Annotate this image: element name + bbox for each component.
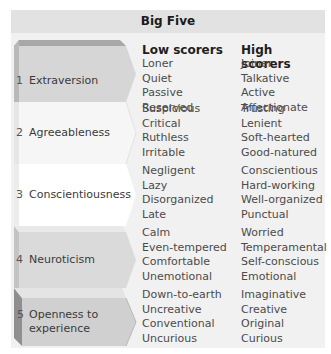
low-word: Even-tempered: [142, 241, 227, 256]
high-word: Joiner: [241, 57, 308, 72]
high-word: Conscientious: [241, 164, 323, 179]
trait-number: 4: [16, 253, 23, 266]
big-five-table: Big Five Low scorers High scorers 1 Extr…: [11, 10, 325, 348]
trait-number: 3: [16, 188, 23, 201]
low-word: Uncreative: [142, 303, 222, 318]
low-word: Down-to-earth: [142, 288, 222, 303]
high-scorer-list: Worried Temperamental Self-conscious Emo…: [241, 226, 327, 284]
low-word: Unemotional: [142, 270, 227, 285]
low-word: Negligent: [142, 164, 214, 179]
high-word: Trusting: [241, 102, 317, 117]
trait-name-line: experience: [29, 322, 98, 336]
trait-row-openness: 5 Openness to experience Down-to-earth U…: [11, 288, 325, 348]
low-scorer-list: Calm Even-tempered Comfortable Unemotion…: [142, 226, 227, 284]
high-scorer-list: Imaginative Creative Original Curious: [241, 288, 306, 346]
low-scorer-list: Suspicious Critical Ruthless Irritable: [142, 102, 200, 160]
low-word: Passive: [142, 86, 193, 101]
high-scorer-list: Trusting Lenient Soft-hearted Good-natur…: [241, 102, 317, 160]
high-word: Talkative: [241, 72, 308, 87]
low-word: Quiet: [142, 72, 193, 87]
trait-row-conscientiousness: 3 Conscientiousness Negligent Lazy Disor…: [11, 164, 325, 226]
high-word: Imaginative: [241, 288, 306, 303]
high-word: Worried: [241, 226, 327, 241]
high-word: Original: [241, 317, 306, 332]
high-word: Self-conscious: [241, 255, 327, 270]
trait-name: Neuroticism: [29, 253, 95, 267]
low-word: Irritable: [142, 146, 200, 161]
low-word: Comfortable: [142, 255, 227, 270]
trait-name: Openness to experience: [29, 308, 98, 336]
trait-name: Extraversion: [29, 74, 98, 88]
low-word: Suspicious: [142, 102, 200, 117]
high-word: Good-natured: [241, 146, 317, 161]
high-word: Punctual: [241, 208, 323, 223]
high-word: Hard-working: [241, 179, 323, 194]
low-word: Disorganized: [142, 193, 214, 208]
chevron-arrow-icon: [14, 40, 140, 104]
low-word: Lazy: [142, 179, 214, 194]
trait-number: 5: [17, 308, 24, 321]
low-word: Conventional: [142, 317, 222, 332]
high-word: Temperamental: [241, 241, 327, 256]
trait-name: Agreeableness: [29, 126, 110, 140]
trait-row-agreeableness: 2 Agreeableness Suspicious Critical Ruth…: [11, 102, 325, 164]
high-word: Curious: [241, 332, 306, 347]
high-word: Soft-hearted: [241, 131, 317, 146]
high-word: Creative: [241, 303, 306, 318]
trait-row-extraversion: 1 Extraversion Loner Quiet Passive Reser…: [11, 40, 325, 102]
low-scorer-list: Down-to-earth Uncreative Conventional Un…: [142, 288, 222, 346]
low-word: Loner: [142, 57, 193, 72]
high-word: Emotional: [241, 270, 327, 285]
high-word: Active: [241, 86, 308, 101]
low-word: Ruthless: [142, 131, 200, 146]
trait-name-line: Openness to: [29, 308, 98, 322]
trait-row-neuroticism: 4 Neuroticism Calm Even-tempered Comfort…: [11, 226, 325, 288]
low-scorer-list: Negligent Lazy Disorganized Late: [142, 164, 214, 222]
low-word: Calm: [142, 226, 227, 241]
high-word: Well-organized: [241, 193, 323, 208]
table-title: Big Five: [11, 14, 325, 28]
low-word: Critical: [142, 117, 200, 132]
low-word: Uncurious: [142, 332, 222, 347]
low-word: Late: [142, 208, 214, 223]
table-header: Big Five: [11, 10, 325, 33]
trait-number: 1: [16, 74, 23, 87]
high-word: Lenient: [241, 117, 317, 132]
trait-number: 2: [16, 126, 23, 139]
high-scorer-list: Conscientious Hard-working Well-organize…: [241, 164, 323, 222]
trait-name: Conscientiousness: [29, 188, 131, 202]
